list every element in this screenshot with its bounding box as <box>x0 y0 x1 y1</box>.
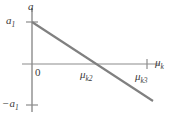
x-axis-label-sub: k <box>161 62 164 71</box>
x-tick-label-mk2-sub: k2 <box>86 74 93 83</box>
y-axis-label: a <box>28 1 34 12</box>
y-tick-label-neg-a1-base: −a <box>2 97 15 109</box>
plot-area <box>0 0 172 117</box>
x-tick-label-mk2: μk2 <box>80 69 93 83</box>
y-tick-label-neg-a1: −a1 <box>2 98 19 112</box>
figure-container: a a1 0 −a1 μk μk2 μk3 <box>0 0 172 117</box>
x-tick-label-mk3: μk3 <box>135 71 148 85</box>
y-tick-label-a1: a1 <box>6 15 15 29</box>
data-line <box>32 22 153 101</box>
x-axis-label: μk <box>155 57 164 71</box>
y-tick-label-a1-sub: 1 <box>12 20 16 29</box>
origin-label: 0 <box>35 67 41 78</box>
x-tick-label-mk3-sub: k3 <box>141 76 148 85</box>
y-tick-label-neg-a1-sub: 1 <box>15 103 19 112</box>
